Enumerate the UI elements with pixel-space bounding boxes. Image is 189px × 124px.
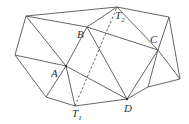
label-c: C	[150, 34, 157, 45]
edge-PTR-PR	[169, 17, 180, 79]
vertex-A	[65, 65, 67, 67]
label-d: D	[124, 103, 132, 114]
edge-C-D	[127, 50, 158, 99]
edge-P1-PL	[15, 16, 26, 55]
edge-PL-PBL	[15, 55, 46, 97]
triangle-network	[0, 0, 189, 124]
edge-C-BRM	[148, 50, 158, 87]
label-t1: T1	[72, 108, 82, 122]
edge-A-T1	[66, 66, 75, 106]
label-a: A	[51, 68, 58, 79]
edge-PBL-T1	[46, 97, 75, 106]
edge-PTR-C	[158, 17, 169, 50]
dashed-edge-T1-T2	[75, 7, 117, 106]
edge-P1-B	[26, 16, 87, 27]
triangulation-diagram: B A C D T2 T1	[0, 0, 189, 124]
edge-P1-T2	[26, 7, 117, 16]
vertex-D	[126, 98, 128, 100]
edge-T1-D	[75, 99, 127, 106]
edge-C-PR	[158, 50, 180, 79]
label-t2: T2	[115, 10, 125, 24]
edge-BRM-D	[127, 87, 148, 99]
label-b: B	[77, 29, 84, 40]
edge-BRM-PR	[148, 79, 180, 87]
